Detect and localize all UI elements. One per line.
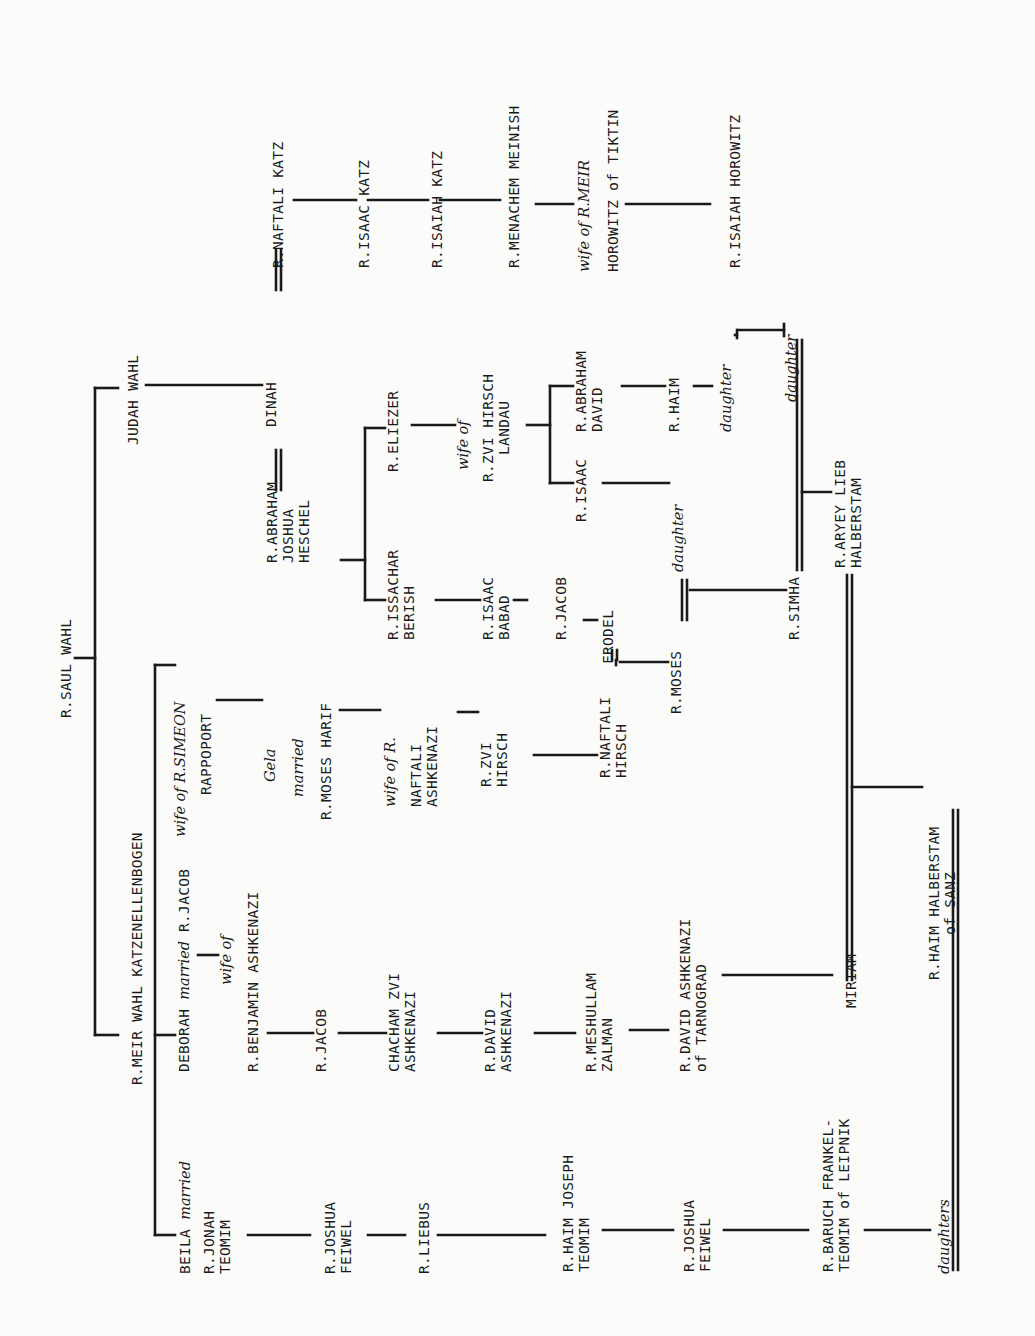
node-beila: BEILA married xyxy=(177,1161,193,1274)
node-miriam: MIRIAM xyxy=(843,954,859,1008)
node-benjamin-ashkenazi: R.BENJAMIN ASHKENAZI xyxy=(245,891,261,1072)
node-joshua-feiwel-2: R.JOSHUA FEIWEL xyxy=(681,1200,713,1272)
node-eliezer: R.ELIEZER xyxy=(385,391,401,472)
node-isaiah-horowitz: R.ISAIAH HOROWITZ xyxy=(727,114,743,268)
node-meir-wahl-katzenellenbogen: R.MEIR WAHL KATZENELLENBOGEN xyxy=(129,832,145,1085)
node-zvi-hirsch-landau: R.ZVI HIRSCH LANDAU xyxy=(480,374,512,482)
node-liebus: R.LIEBUS xyxy=(416,1202,432,1274)
node-joshua-feiwel-1: R.JOSHUA FEIWEL xyxy=(322,1202,354,1274)
node-isaiah-katz: R.ISAIAH KATZ xyxy=(429,151,445,268)
node-zvi-hirsch: R.ZVI HIRSCH xyxy=(478,733,510,787)
node-daughter-of-haim: daughter xyxy=(718,365,734,432)
node-moses: R.MOSES xyxy=(668,651,684,714)
node-david-ashkenazi: R.DAVID ASHKENAZI xyxy=(482,991,514,1072)
node-daughter-of-isaac: daughter xyxy=(670,505,686,572)
node-aryey-lieb-halberstam: R.ARYEY LIEB HALBERSTAM xyxy=(832,460,864,568)
node-chacham-zvi: CHACHAM ZVI ASHKENAZI xyxy=(386,973,418,1072)
node-dinah: DINAH xyxy=(263,382,279,427)
node-moses-harif: R.MOSES HARIF xyxy=(318,703,334,820)
node-menachem-meinish: R.MENACHEM MEINISH xyxy=(506,105,522,268)
node-judah-wahl: JUDAH WAHL xyxy=(125,355,141,445)
node-wife-of-naftali: wife of R. xyxy=(382,737,398,807)
node-wife-of-benjamin: wife of xyxy=(218,935,234,985)
node-issachar-berish: R.ISSACHAR BERISH xyxy=(385,550,417,640)
node-isaac-landau: R.ISAAC xyxy=(573,459,589,522)
node-haim: R.HAIM xyxy=(666,378,682,432)
node-daughters: daughters xyxy=(936,1199,952,1274)
node-naftali-ashkenazi: NAFTALI ASHKENAZI xyxy=(408,726,440,807)
node-horowitz-of-tiktin: HOROWITZ of TIKTIN xyxy=(605,109,621,272)
node-jacob-ashkenazi: R.JACOB xyxy=(313,1009,329,1072)
node-meshullam-zalman: R.MESHULLAM ZALMAN xyxy=(583,973,615,1072)
genealogy-chart-page: R.SAUL WAHL JUDAH WAHL R.MEIR WAHL KATZE… xyxy=(0,0,1035,1336)
node-daughter-of-isaiah-horowitz: daughter xyxy=(783,335,799,402)
node-wife-of-simeon: wife of R.SIMEON xyxy=(172,701,188,837)
node-gela-married: married xyxy=(290,738,306,797)
node-simha: R.SIMHA xyxy=(786,577,802,640)
node-abraham-david: R.ABRAHAM DAVID xyxy=(573,351,605,432)
node-abraham-joshua-heschel: R.ABRAHAM JOSHUA HESCHEL xyxy=(264,482,312,563)
node-wife-of-meir-horowitz: wife of R.MEIR xyxy=(576,160,592,272)
node-wife-of-zvi-hirsch-landau: wife of xyxy=(455,420,471,470)
node-naftali-hirsch: R.NAFTALI HIRSCH xyxy=(597,697,629,778)
node-haim-joseph-teomim: R.HAIM JOSEPH TEOMIM xyxy=(560,1155,592,1272)
node-rappoport: RAPPOPORT xyxy=(198,714,214,795)
node-deborah: DEBORAH married R.JACOB xyxy=(176,869,192,1072)
node-baruch-frankel-teomim: R.BARUCH FRANKEL- TEOMIM of LEIPNIK xyxy=(820,1118,852,1272)
node-isaac-katz: R.ISAAC KATZ xyxy=(356,160,372,268)
node-jonah-teomim: R.JONAH TEOMIM xyxy=(201,1211,233,1274)
node-isaac-babad: R.ISAAC BABAD xyxy=(480,577,512,640)
node-david-ashkenazi-tarnograd: R.DAVID ASHKENAZI of TARNOGRAD xyxy=(677,918,709,1072)
node-naftali-katz: R.NAFTALI KATZ xyxy=(270,142,286,268)
node-gela: Gela xyxy=(262,749,278,782)
node-frodel: FRODEL xyxy=(600,610,616,664)
node-haim-halberstam-of-sanz: R.HAIM HALBERSTAM of SANZ xyxy=(926,826,958,980)
node-saul-wahl: R.SAUL WAHL xyxy=(58,619,74,718)
node-jacob-babad: R.JACOB xyxy=(553,577,569,640)
